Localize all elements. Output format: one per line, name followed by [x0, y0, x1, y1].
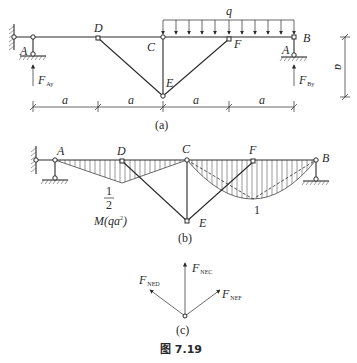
label-b-B: B	[322, 151, 330, 165]
moment-hatch-left	[60, 160, 180, 185]
distributed-load-icon	[163, 20, 294, 34]
label-F: F	[233, 37, 242, 51]
panel-b: A D C F B E 1 2 1 M(qa2) (b)	[31, 142, 330, 245]
reaction-label-left: FAy	[37, 73, 53, 87]
force-arrow-NEF	[185, 290, 220, 316]
node-b-B	[314, 158, 318, 162]
label-b-A: A	[56, 144, 65, 158]
panel-a: q A D C E F B A FAy FBy	[9, 4, 350, 132]
label-b-D: D	[116, 144, 126, 158]
node-F	[227, 37, 231, 41]
node-b-B-support	[314, 177, 318, 181]
moment-parabola	[187, 160, 316, 199]
node-A	[31, 35, 35, 39]
label-C: C	[147, 40, 156, 54]
panel-b-label: (b)	[178, 231, 192, 245]
label-E: E	[165, 76, 174, 90]
figure-caption: 图 7.19	[160, 343, 202, 356]
force-arrow-NED	[150, 290, 185, 316]
dim-a-3: a	[193, 93, 199, 107]
node-b-A	[53, 158, 57, 162]
member-b-DE	[122, 161, 187, 221]
node-C	[161, 35, 165, 39]
moment-unit-label: M(qa2)	[93, 214, 127, 228]
node-c-E	[183, 314, 187, 318]
label-B: B	[303, 31, 311, 45]
force-label-NEC: FNEC	[191, 261, 212, 275]
node-b-E	[185, 219, 189, 223]
reaction-label-right: FBy	[298, 73, 314, 87]
force-label-NED: FNED	[138, 273, 160, 287]
node-b-wall	[34, 158, 38, 162]
node-b-D	[120, 159, 124, 163]
label-A-right: A	[281, 43, 290, 57]
dim-a-1: a	[62, 93, 68, 107]
dim-a-vertical: a	[332, 64, 346, 70]
panel-c-label: (c)	[176, 323, 189, 337]
figure-canvas: q A D C E F B A FAy FBy	[0, 0, 357, 363]
moment-value-right: 1	[254, 203, 260, 217]
node-b-C	[185, 158, 189, 162]
label-b-C: C	[182, 142, 191, 156]
load-label: q	[226, 4, 232, 18]
dimension-horizontal	[30, 101, 297, 112]
panel-a-label: (a)	[155, 118, 168, 132]
node-B-support	[292, 53, 296, 57]
dim-a-4: a	[259, 93, 265, 107]
label-b-E: E	[198, 216, 207, 230]
node-A-support	[31, 52, 35, 56]
node-D	[96, 36, 100, 40]
label-A-left: A	[19, 44, 28, 58]
label-D: D	[93, 21, 103, 35]
node-b-F	[251, 159, 255, 163]
label-b-F: F	[248, 143, 257, 157]
node-B	[292, 35, 296, 39]
node-E	[161, 94, 165, 98]
dim-a-2: a	[128, 93, 134, 107]
panel-c: FNED FNEC FNEF (c)	[138, 261, 242, 337]
force-label-NEF: FNEF	[221, 287, 242, 301]
node-b-A-support	[53, 176, 57, 180]
moment-value-left-num: 1	[106, 184, 112, 198]
node-wall-pin	[12, 35, 16, 39]
moment-value-left-den: 2	[106, 198, 112, 212]
